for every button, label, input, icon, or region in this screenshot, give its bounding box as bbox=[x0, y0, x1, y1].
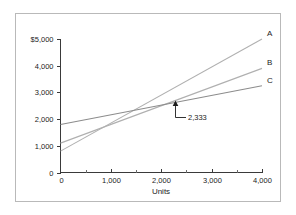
y-tick-label-1000: 1,000 bbox=[35, 142, 54, 151]
x-tick-label-2000: 2,000 bbox=[152, 176, 171, 185]
x-tick-label-0: 0 bbox=[59, 176, 63, 185]
series-label-c: C bbox=[267, 76, 273, 85]
x-tick-label-4000: 4,000 bbox=[253, 176, 272, 185]
y-tick-label-0: 0 bbox=[49, 169, 53, 178]
annotation-label: 2,333 bbox=[188, 113, 207, 122]
y-tick-label-2000: 2,000 bbox=[35, 115, 54, 124]
x-axis-title: Units bbox=[152, 187, 170, 196]
x-tick-label-3000: 3,000 bbox=[203, 176, 222, 185]
series-line-c bbox=[61, 86, 263, 125]
series-label-b: B bbox=[267, 58, 272, 67]
annotation-leader-line bbox=[176, 104, 187, 118]
chart-figure: 01,0002,0003,0004,000$5,000 01,0002,0003… bbox=[0, 0, 296, 215]
annotation-2333: 2,333 bbox=[173, 101, 207, 123]
series-line-a bbox=[61, 39, 263, 151]
series-label-a: A bbox=[267, 29, 273, 38]
series-lines-group bbox=[61, 39, 263, 151]
y-tick-label-3000: 3,000 bbox=[35, 88, 54, 97]
series-labels-group: ABC bbox=[267, 29, 273, 85]
y-tick-label-4000: 4,000 bbox=[35, 62, 54, 71]
y-axis-ticks: 01,0002,0003,0004,000$5,000 bbox=[31, 35, 61, 178]
line-chart: 01,0002,0003,0004,000$5,000 01,0002,0003… bbox=[0, 0, 296, 215]
y-tick-label-5000: $5,000 bbox=[31, 35, 54, 44]
x-tick-label-1000: 1,000 bbox=[102, 176, 121, 185]
x-axis-ticks: 01,0002,0003,0004,000 bbox=[59, 169, 271, 185]
series-line-b bbox=[61, 68, 263, 143]
